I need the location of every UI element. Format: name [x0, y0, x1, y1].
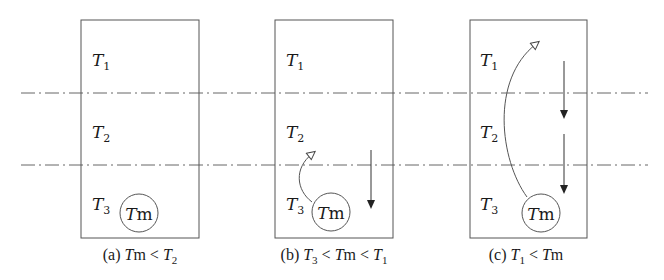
zone-label-t2: T2 [480, 122, 498, 145]
zone-label-t1: T1 [286, 50, 304, 73]
caption-b: (b) T3 < Tm < T1 [281, 246, 388, 266]
panel-b: T1 T2 T3 Tm (b) T3 < Tm < T1 [275, 20, 393, 266]
caption-a: (a) Tm < T2 [103, 246, 178, 266]
tm-label: Tm [125, 204, 152, 224]
tm-label: Tm [317, 203, 344, 223]
zone-label-t3: T3 [92, 194, 110, 217]
zone-label-t1: T1 [92, 50, 110, 73]
zone-label-t3: T3 [480, 194, 498, 217]
panel-c: T1 T2 T3 Tm (c) T1 < Tm [470, 20, 587, 266]
zone-label-t3: T3 [286, 194, 304, 217]
caption-c: (c) T1 < Tm [489, 246, 564, 266]
zone-label-t1: T1 [480, 50, 498, 73]
rising-arrow [504, 44, 536, 197]
zone-label-t2: T2 [92, 122, 110, 145]
rising-arrow [299, 154, 312, 202]
convection-diagram: T1 T2 T3 Tm (a) Tm < T2 T1 T2 T3 Tm (b) … [0, 0, 664, 280]
zone-label-t2: T2 [286, 122, 304, 145]
panel-a: T1 T2 T3 Tm (a) Tm < T2 [81, 20, 199, 266]
tm-label: Tm [527, 204, 554, 224]
